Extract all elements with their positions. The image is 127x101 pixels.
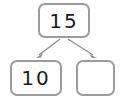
arrow-whole-to-left-part xyxy=(36,39,60,58)
number-bond-diagram: 15 10 xyxy=(0,0,127,101)
whole-value: 15 xyxy=(49,11,78,31)
part-left-value: 10 xyxy=(21,68,50,88)
whole-box[interactable]: 15 xyxy=(38,3,90,38)
part-left-box[interactable]: 10 xyxy=(10,60,62,96)
part-right-box[interactable] xyxy=(76,60,115,96)
arrow-whole-to-right-part xyxy=(68,39,97,58)
